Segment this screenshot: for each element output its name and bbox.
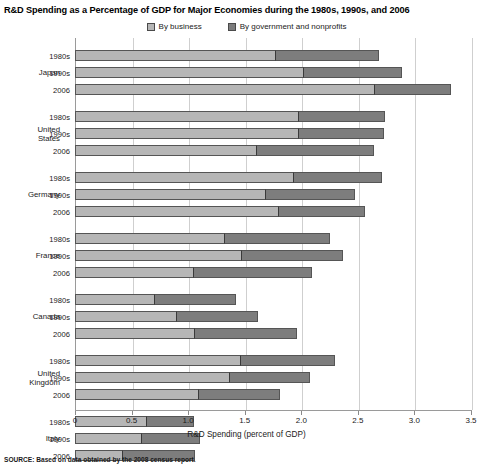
legend-label-government: By government and nonprofits <box>240 22 347 31</box>
country-label: France <box>0 251 60 260</box>
bar-row <box>75 328 297 339</box>
bar-segment-government <box>265 189 354 200</box>
country-label: UnitedKingdom <box>0 369 60 387</box>
bar-segment-government <box>374 84 451 95</box>
source-note: SOURCE: Based on data obtained by the 20… <box>4 456 196 463</box>
legend-label-business: By business <box>159 22 202 31</box>
country-label: Canada <box>0 312 60 321</box>
country-label: Japan <box>0 68 60 77</box>
bar-segment-business <box>75 206 279 217</box>
legend-swatch-government-icon <box>228 23 236 31</box>
bar-segment-government <box>193 267 312 278</box>
bar-row <box>75 355 335 366</box>
bar-segment-business <box>75 311 177 322</box>
bar-segment-business <box>75 328 195 339</box>
bar-segment-business <box>75 267 194 278</box>
bar-segment-business <box>75 84 375 95</box>
x-tick-label: 2.0 <box>296 416 307 425</box>
x-tick <box>188 411 189 415</box>
chart-legend: By business By government and nonprofits <box>0 22 493 31</box>
x-tick <box>75 411 76 415</box>
x-tick-label: 2.5 <box>352 416 363 425</box>
period-label: 2006 <box>30 86 70 95</box>
bar-row <box>75 311 258 322</box>
bar-segment-business <box>75 189 266 200</box>
x-tick <box>414 411 415 415</box>
bar-row <box>75 294 236 305</box>
bar-segment-government <box>198 389 279 400</box>
bar-row <box>75 250 343 261</box>
bar-segment-government <box>298 111 385 122</box>
bar-segment-government <box>278 206 365 217</box>
bar-segment-government <box>194 328 297 339</box>
period-label: 1980s <box>30 296 70 305</box>
bar-row <box>75 128 384 139</box>
legend-item-business: By business <box>147 22 202 31</box>
bar-row <box>75 172 382 183</box>
bar-segment-government <box>154 294 235 305</box>
bar-row <box>75 145 374 156</box>
period-label: 1980s <box>30 235 70 244</box>
period-label: 2006 <box>30 208 70 217</box>
bar-segment-government <box>256 145 374 156</box>
x-tick-label: 3.0 <box>409 416 420 425</box>
bar-segment-business <box>75 172 294 183</box>
bar-row <box>75 111 385 122</box>
period-label: 2006 <box>30 147 70 156</box>
period-label: 2006 <box>30 391 70 400</box>
x-axis-title: R&D Spending (percent of GDP) <box>0 430 493 439</box>
bar-row <box>75 84 451 95</box>
bar-segment-business <box>75 50 276 61</box>
x-tick-label: 3.5 <box>465 416 476 425</box>
x-tick-label: 1.0 <box>183 416 194 425</box>
bar-segment-business <box>75 355 241 366</box>
bar-segment-government <box>298 128 384 139</box>
bar-segment-business <box>75 250 242 261</box>
period-label: 2006 <box>30 269 70 278</box>
x-tick <box>471 411 472 415</box>
bar-segment-business <box>75 389 199 400</box>
period-label: 2006 <box>30 330 70 339</box>
gridline <box>472 38 473 410</box>
period-label: 1980s <box>30 174 70 183</box>
bar-segment-business <box>75 372 230 383</box>
period-label: 1980s <box>30 113 70 122</box>
chart-page: R&D Spending as a Percentage of GDP for … <box>0 0 493 465</box>
bar-row <box>75 206 365 217</box>
bar-row <box>75 189 355 200</box>
bar-segment-government <box>293 172 381 183</box>
x-tick-label: 0 <box>73 416 77 425</box>
x-tick <box>301 411 302 415</box>
bar-row <box>75 50 379 61</box>
x-tick <box>358 411 359 415</box>
country-label: UnitedStates <box>0 125 60 143</box>
bar-segment-government <box>240 355 335 366</box>
bar-segment-business <box>75 128 299 139</box>
bar-segment-government <box>176 311 259 322</box>
period-label: 1980s <box>30 52 70 61</box>
bar-segment-government <box>229 372 310 383</box>
x-tick <box>132 411 133 415</box>
bar-row <box>75 372 310 383</box>
bar-segment-business <box>75 145 257 156</box>
bar-segment-government <box>303 67 403 78</box>
period-label: 1980s <box>30 357 70 366</box>
bar-segment-government <box>224 233 329 244</box>
bar-segment-government <box>241 250 343 261</box>
x-tick <box>245 411 246 415</box>
country-label: Germany <box>0 190 60 199</box>
bar-row <box>75 67 402 78</box>
bar-segment-business <box>75 67 304 78</box>
bar-row <box>75 267 312 278</box>
x-tick-label: 1.5 <box>239 416 250 425</box>
legend-item-government: By government and nonprofits <box>228 22 347 31</box>
bar-segment-government <box>275 50 379 61</box>
x-axis-line <box>75 410 472 411</box>
bar-segment-business <box>75 111 299 122</box>
bar-row <box>75 233 330 244</box>
legend-swatch-business-icon <box>147 23 155 31</box>
bar-row <box>75 389 280 400</box>
x-tick-label: 0.5 <box>126 416 137 425</box>
period-label: 1980s <box>30 418 70 427</box>
bar-segment-business <box>75 294 155 305</box>
